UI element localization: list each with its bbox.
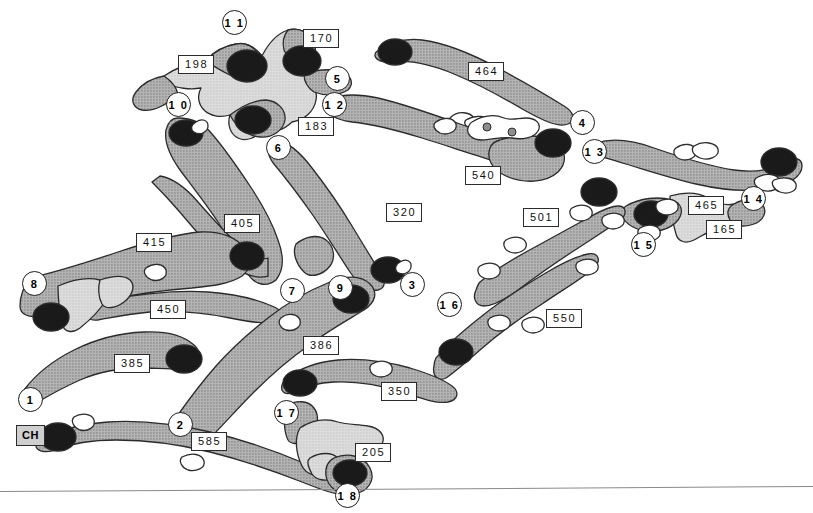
segment-label-585: 585 [191,432,227,451]
node-marker-15[interactable]: 1 5 [631,232,656,257]
node-marker-6[interactable]: 6 [266,135,291,160]
terminal-basin-blob [33,303,69,331]
segment-label-465: 465 [688,196,724,215]
segment-label-386: 386 [303,336,339,355]
branch-385 [21,332,202,404]
branch-350 [282,359,457,402]
node-marker-5[interactable]: 5 [325,66,350,91]
segment-label-415: 415 [136,233,172,252]
terminal-basin-blob [230,242,264,270]
ch-marker: CH [16,425,45,446]
map-canvas [0,0,813,513]
segment-label-165: 165 [706,220,742,239]
branch-stub-9 [294,237,333,276]
node-marker-3[interactable]: 3 [400,272,425,297]
node-marker-8[interactable]: 8 [22,271,47,296]
node-marker-11[interactable]: 1 1 [222,10,247,35]
segment-label-320: 320 [386,203,422,222]
segment-label-405: 405 [224,214,260,233]
node-marker-14[interactable]: 1 4 [741,186,766,211]
valley-network-map: CH17019846418354046532050116540541545055… [0,0,813,513]
node-marker-7[interactable]: 7 [280,278,305,303]
terminal-basin-blob [166,345,202,373]
segment-label-550: 550 [546,309,582,328]
terminal-basin-blob [535,129,571,157]
node-marker-13[interactable]: 1 3 [582,139,607,164]
segment-label-501: 501 [523,208,559,227]
node-marker-18[interactable]: 1 8 [335,483,360,508]
segment-label-205: 205 [355,443,391,462]
terminal-basin-blob [378,39,412,65]
terminal-basin-blob [439,339,473,365]
segment-label-350: 350 [381,382,417,401]
segment-label-183: 183 [298,117,334,136]
branch-465 [589,140,802,193]
segment-label-170: 170 [303,29,339,48]
segment-label-450: 450 [150,300,186,319]
terminal-basin-blob [581,178,617,206]
segment-label-198: 198 [178,55,214,74]
island-dot [508,128,516,136]
node-marker-12[interactable]: 1 2 [322,92,347,117]
terminal-basin-blob [40,423,76,451]
node-marker-17[interactable]: 1 7 [274,400,299,425]
node-marker-1[interactable]: 1 [18,387,43,412]
segment-label-464: 464 [468,62,504,81]
node-marker-16[interactable]: 1 6 [437,292,462,317]
terminal-basin-blob [227,50,267,82]
segment-label-385: 385 [114,354,150,373]
node-marker-10[interactable]: 1 0 [166,92,191,117]
island-dot [483,123,491,131]
terminal-basin-blob [235,106,271,134]
terminal-basin-blob [283,46,321,76]
terminal-basin-blob [761,148,797,176]
node-marker-4[interactable]: 4 [570,110,595,135]
node-marker-2[interactable]: 2 [168,412,193,437]
node-marker-9[interactable]: 9 [328,275,353,300]
terminal-basin-blob [283,370,317,396]
segment-label-540: 540 [465,166,501,185]
terminal-basin-blob [333,460,367,486]
